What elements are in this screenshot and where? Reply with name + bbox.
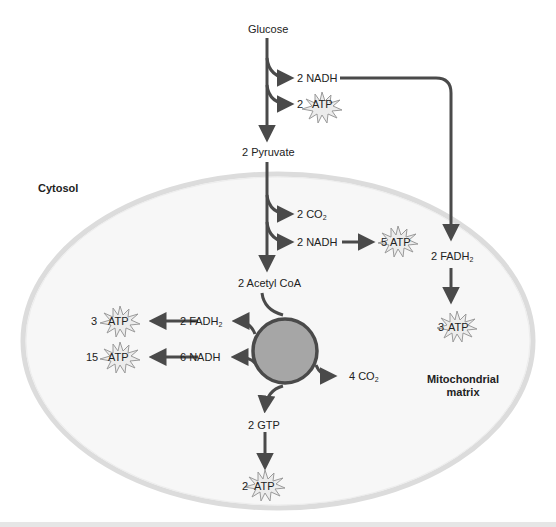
pyruvate-label: 2 Pyruvate: [242, 146, 295, 159]
atp-label: ATP: [312, 98, 333, 111]
glucose-label: Glucose: [248, 23, 288, 36]
atp-label: ATP: [108, 351, 129, 364]
krebs-nadh-atp-count: 15: [86, 351, 98, 364]
shuttle-atp-count: 3: [438, 321, 444, 334]
krebs-nadh-label: 6 NADH: [180, 351, 220, 364]
acetyl-coa-label: 2 Acetyl CoA: [238, 277, 301, 290]
pyruvate-atp-count: 5: [381, 236, 387, 249]
krebs-co2-label: 4 CO2: [349, 370, 379, 383]
glycolysis-atp-count: 2: [297, 98, 303, 111]
matrix-label-line2: matrix: [418, 386, 508, 399]
matrix-label-line1: Mitochondrial: [418, 373, 508, 386]
atp-label: ATP: [254, 480, 275, 493]
glycolysis-nadh-label: 2 NADH: [297, 72, 337, 85]
gtp-atp-count: 2: [242, 480, 248, 493]
shuttle-fadh2-label: 2 FADH2: [431, 250, 473, 263]
matrix-label: Mitochondrial matrix: [418, 373, 508, 399]
pyruvate-nadh-label: 2 NADH: [297, 236, 337, 249]
atp-label: ATP: [390, 236, 411, 249]
cytosol-label: Cytosol: [38, 182, 78, 195]
respiration-diagram: [0, 0, 556, 527]
gtp-label: 2 GTP: [248, 419, 280, 432]
krebs-fadh2-atp-count: 3: [91, 315, 97, 328]
pyruvate-co2-label: 2 CO2: [297, 208, 327, 221]
krebs-fadh2-label: 2 FADH2: [180, 315, 222, 328]
bottom-divider: [0, 522, 556, 527]
atp-label: ATP: [108, 315, 129, 328]
atp-label: ATP: [448, 321, 469, 334]
